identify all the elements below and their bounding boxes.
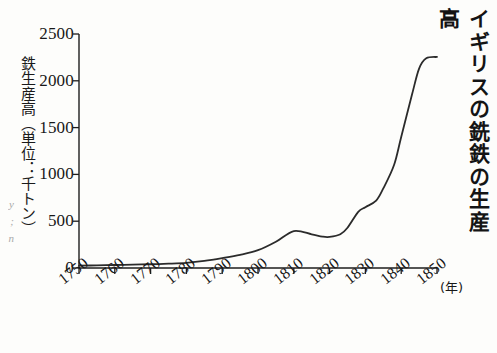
x-tick-label-group: 1750176017701780179018001810182018301840… bbox=[0, 274, 497, 334]
x-axis-unit-label: (年) bbox=[440, 277, 463, 296]
y-axis-ticks bbox=[73, 34, 79, 268]
axes bbox=[79, 34, 437, 268]
chart-page: y ; n イギリスの銑鉄の生産高 鉄生産高（単位：千トン） 050010001… bbox=[0, 0, 497, 353]
production-line-series bbox=[79, 57, 437, 266]
